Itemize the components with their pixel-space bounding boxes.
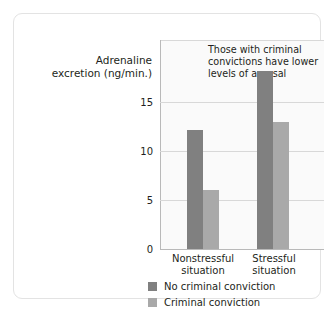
legend-label-criminal-conviction: Criminal conviction bbox=[164, 297, 260, 308]
legend-swatch-criminal-conviction bbox=[148, 298, 157, 307]
bar-stressful-no-conviction bbox=[257, 71, 273, 249]
y-axis-title-line-2: excretion (ng/min.) bbox=[34, 67, 152, 80]
legend-swatch-no-criminal-conviction bbox=[148, 282, 157, 291]
bar-nonstressful-criminal-conviction bbox=[203, 190, 219, 249]
bar-stressful-criminal-conviction bbox=[273, 122, 289, 249]
y-tick-label-10: 10 bbox=[129, 146, 153, 157]
x-category-label-stressful: Stressful situation bbox=[229, 253, 319, 277]
legend-label-no-criminal-conviction: No criminal conviction bbox=[164, 281, 275, 292]
bar-layer bbox=[160, 40, 324, 249]
chart-legend: No criminal conviction Criminal convicti… bbox=[148, 280, 275, 312]
axis-baseline bbox=[160, 249, 324, 250]
y-tick-label-0: 0 bbox=[129, 244, 153, 255]
y-tick-label-5: 5 bbox=[129, 195, 153, 206]
legend-item-criminal-conviction: Criminal conviction bbox=[148, 296, 275, 309]
chart-figure: Adrenaline excretion (ng/min.) 15 10 5 0… bbox=[0, 0, 335, 314]
x-category-label-stressful-line-1: Stressful bbox=[229, 253, 319, 265]
legend-item-no-criminal-conviction: No criminal conviction bbox=[148, 280, 275, 293]
figure-card: Adrenaline excretion (ng/min.) 15 10 5 0… bbox=[13, 13, 321, 299]
x-category-label-stressful-line-2: situation bbox=[229, 265, 319, 277]
y-axis-title-line-1: Adrenaline bbox=[34, 54, 152, 67]
bar-nonstressful-no-conviction bbox=[187, 130, 203, 249]
y-tick-label-15: 15 bbox=[129, 97, 153, 108]
y-axis-title: Adrenaline excretion (ng/min.) bbox=[34, 54, 152, 80]
